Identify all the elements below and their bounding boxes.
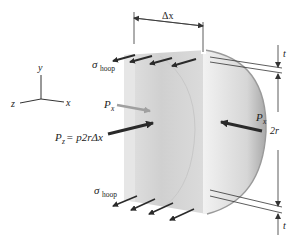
svg-text:P: P [255,111,263,123]
svg-text:= p2rΔx: = p2rΔx [66,131,103,143]
delta-x-dimension: Δx [134,10,203,52]
axis-label-y: y [37,62,43,73]
svg-text:hoop: hoop [102,190,117,199]
cylinder-slice [124,49,266,214]
diameter-label: 2r [270,125,279,136]
svg-text:P: P [103,98,111,110]
delta-x-label: Δx [162,10,173,21]
svg-text:x: x [262,117,267,126]
svg-text:P: P [54,131,62,143]
svg-text:x: x [110,104,115,113]
svg-text:σ: σ [94,184,100,196]
sigma-hoop-label-bottom: σ hoop [94,184,117,199]
sigma-hoop-label-top: σ hoop [92,58,115,73]
thickness-label-bottom: t [283,220,286,231]
diagram-svg: y x z Δx σ hoop P x [0,0,296,240]
axis-label-x: x [65,97,71,108]
svg-text:σ: σ [92,58,98,70]
thickness-label-top: t [283,48,286,59]
svg-text:z: z [61,137,65,146]
free-body-diagram: y x z Δx σ hoop P x [0,0,296,240]
svg-text:hoop: hoop [100,64,115,73]
axis-label-z: z [10,98,15,109]
coordinate-axes: y x z [10,62,71,109]
